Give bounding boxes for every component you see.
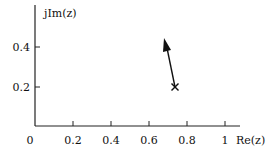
- trajectory-arrow-shaft: [167, 48, 175, 87]
- x-tick-label: 0.8: [178, 134, 196, 147]
- x-tick-label: 0: [27, 134, 34, 147]
- x-tick-label: 0.2: [64, 134, 82, 147]
- arrowhead-icon: [163, 38, 171, 52]
- y-tick-label: 0.2: [13, 81, 31, 94]
- x-tick-label: 0.4: [102, 134, 120, 147]
- x-tick-label: 1: [222, 134, 229, 147]
- x-tick-label: 0.6: [140, 134, 158, 147]
- plot-canvas: 0.2 0.4 jIm(z) 0 0.2 0.4 0.6 0.8 1 Re(z): [0, 0, 276, 152]
- x-axis-title: Re(z): [236, 134, 265, 147]
- y-tick-label: 0.4: [13, 41, 31, 54]
- y-axis-title: jIm(z): [42, 7, 77, 20]
